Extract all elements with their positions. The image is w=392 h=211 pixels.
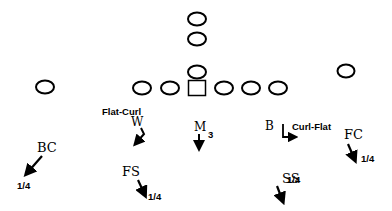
w-route-arrow [137,128,144,142]
defender-w: Flat-Curl W [102,106,144,142]
ss-assignment-label: 1/4 [287,174,301,185]
offense-formation [36,13,355,96]
defender-fs: FS 1/4 [122,164,162,202]
left-tackle [133,82,151,95]
fc-route-arrow [348,144,354,158]
right-guard [215,82,233,95]
m-assignment-label: 3 [208,129,213,140]
defender-bc: BC 1/4 [17,140,57,191]
left-guard [161,82,179,95]
wide-receiver-left [36,81,54,94]
ss-route-arrow [277,186,282,199]
wide-receiver-right [338,65,355,78]
fullback [188,33,206,46]
b-label: B [265,119,274,133]
defender-b: B Curl-Flat [265,119,332,137]
defender-m: M 3 [194,120,213,146]
defender-fc: FC 1/4 [344,127,375,164]
m-label: M [194,120,206,134]
w-label: W [131,115,144,129]
bc-label: BC [37,140,57,155]
fs-assignment-label: 1/4 [148,191,162,202]
bc-assignment-label: 1/4 [17,180,31,191]
fs-label: FS [122,164,140,179]
center-square [189,81,206,96]
tailback [188,13,206,26]
defender-ss: SS 1/4 [277,171,301,199]
coverage-diagram: Flat-Curl W M 3 B Curl-Flat BC 1/4 FC 1/… [0,0,392,211]
fc-assignment-label: 1/4 [361,153,375,164]
tight-end [269,82,287,95]
fs-route-arrow [138,180,144,193]
b-assignment-label: Curl-Flat [292,121,332,132]
fc-label: FC [344,127,363,142]
quarterback [188,66,206,79]
bc-route-arrow [28,156,42,172]
right-tackle [242,82,260,95]
